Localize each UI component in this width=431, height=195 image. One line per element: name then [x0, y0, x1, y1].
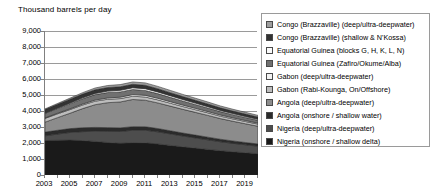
- legend-item: Nigeria (deep/ultra-deepwater): [266, 122, 426, 135]
- legend-item: Congo (Brazzaville) (deep/ultra-deepwate…: [266, 18, 426, 31]
- legend-swatch-icon: [266, 86, 273, 93]
- x-axis-tick-label: 2009: [111, 179, 128, 188]
- chart-legend: Congo (Brazzaville) (deep/ultra-deepwate…: [261, 13, 430, 147]
- y-axis-tick-label: 9,000: [1, 27, 41, 35]
- legend-swatch-icon: [266, 60, 273, 67]
- legend-item-label: Congo (Brazzaville) (shallow & N'Kossa): [277, 34, 406, 42]
- x-axis-tick-label: 2003: [36, 179, 53, 188]
- y-axis-tick-label: 1,000: [1, 155, 41, 163]
- legend-item-label: Gabon (deep/ultra-deepwater): [277, 73, 373, 81]
- legend-swatch-icon: [266, 112, 273, 119]
- legend-item-label: Congo (Brazzaville) (deep/ultra-deepwate…: [277, 21, 414, 29]
- y-axis-tick-label: 3,000: [1, 123, 41, 130]
- legend-item-label: Equatorial Guinea (blocks G, H, K, L, N): [277, 47, 404, 55]
- x-axis-tick-label: 2015: [186, 179, 203, 188]
- y-axis-tick-label: 6,000: [1, 75, 41, 83]
- plot-area: [44, 31, 257, 175]
- legend-item: Gabon (Rabi-Kounga, On/Offshore): [266, 83, 426, 96]
- legend-swatch-icon: [266, 47, 273, 54]
- legend-item-label: Nigeria (onshore / shallow delta): [277, 138, 380, 146]
- y-axis-tick-label: 5,000: [1, 91, 41, 99]
- y-axis-labels: 01,0002,0003,0004,0005,0006,0007,0008,00…: [0, 31, 41, 175]
- legend-swatch-icon: [266, 73, 273, 80]
- legend-item: Nigeria (onshore / shallow delta): [266, 135, 426, 148]
- x-axis-ticks: [44, 175, 258, 178]
- legend-swatch-icon: [266, 34, 273, 41]
- x-axis-tick-label: 2013: [161, 179, 178, 188]
- x-axis-labels: 200320052007200920112013201520172019: [0, 179, 300, 191]
- stacked-area-series: [45, 31, 258, 175]
- y-axis-tick-label: 7,000: [1, 59, 41, 67]
- legend-item-label: Angola (deep/ultra-deepwater): [277, 99, 374, 107]
- axis-unit-title: Thousand barrels per day: [18, 5, 112, 14]
- y-axis-tick-label: 0: [1, 171, 41, 179]
- legend-swatch-icon: [266, 138, 273, 145]
- legend-item-label: Nigeria (deep/ultra-deepwater): [277, 125, 374, 133]
- x-axis-tick-label: 2011: [136, 179, 152, 188]
- x-axis-tick-label: 2005: [61, 179, 78, 188]
- legend-item: Equatorial Guinea (blocks G, H, K, L, N): [266, 44, 426, 57]
- y-axis-tick-label: 2,000: [1, 139, 41, 147]
- legend-swatch-icon: [266, 99, 273, 106]
- legend-item-label: Angola (onshore / shallow water): [277, 112, 382, 120]
- legend-item: Angola (deep/ultra-deepwater): [266, 96, 426, 109]
- legend-item-label: Equatorial Guinea (Zafiro/Okume/Alba): [277, 60, 401, 68]
- x-axis-tick-label: 2007: [86, 179, 103, 188]
- chart-screenshot: Thousand barrels per day 01,0002,0003,00…: [0, 0, 431, 195]
- x-axis-tick-label: 2017: [211, 179, 228, 188]
- legend-item: Gabon (deep/ultra-deepwater): [266, 70, 426, 83]
- y-axis-tick-label: 4,000: [1, 107, 41, 115]
- legend-item: Equatorial Guinea (Zafiro/Okume/Alba): [266, 57, 426, 70]
- x-axis-tick-label: 2019: [236, 179, 253, 188]
- y-axis-tick-label: 8,000: [1, 43, 41, 51]
- legend-item: Angola (onshore / shallow water): [266, 109, 426, 122]
- legend-swatch-icon: [266, 125, 273, 132]
- legend-item: Congo (Brazzaville) (shallow & N'Kossa): [266, 31, 426, 44]
- legend-swatch-icon: [266, 21, 273, 28]
- legend-item-label: Gabon (Rabi-Kounga, On/Offshore): [277, 86, 390, 94]
